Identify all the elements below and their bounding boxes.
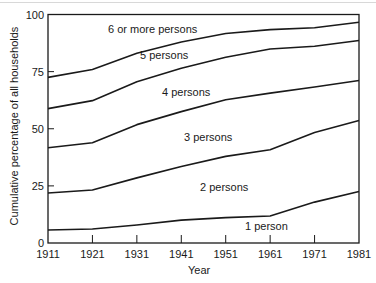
y-tick-label: 25 (32, 180, 44, 192)
series-line (48, 22, 359, 77)
band-label: 5 persons (140, 49, 189, 61)
x-tick-label: 1981 (347, 248, 371, 260)
band-label: 4 persons (162, 86, 211, 98)
x-tick-label: 1961 (258, 248, 282, 260)
x-tick-label: 1921 (80, 248, 104, 260)
band-label: 6 or more persons (108, 23, 198, 35)
x-axis-label: Year (188, 264, 210, 276)
x-tick-label: 1911 (36, 248, 60, 260)
y-tick-label: 75 (32, 66, 44, 78)
x-tick-label: 1951 (213, 248, 237, 260)
series-line (48, 192, 359, 230)
series-line (48, 41, 359, 109)
band-label: 2 persons (200, 181, 249, 193)
x-tick-label: 1931 (125, 248, 149, 260)
y-tick-label: 50 (32, 123, 44, 135)
band-label: 1 person (245, 220, 288, 232)
y-axis-label: Cumulative percentage of all households (8, 26, 20, 226)
band-label: 3 persons (184, 131, 233, 143)
cumulative-household-chart: 0255075100191119211931194119511961197119… (0, 0, 376, 283)
x-tick-label: 1941 (169, 248, 193, 260)
plot-frame (48, 15, 359, 244)
x-tick-label: 1971 (302, 248, 326, 260)
y-tick-label: 100 (26, 9, 44, 21)
